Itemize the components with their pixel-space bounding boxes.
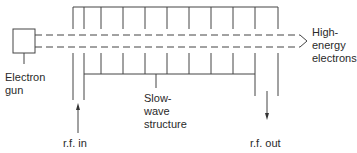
rf-in-label: r.f. in bbox=[63, 137, 87, 150]
slow-wave-structure-label: Slow- wave structure bbox=[144, 92, 187, 131]
electron-gun-label: Electron gun bbox=[5, 71, 45, 97]
outer-tube bbox=[73, 7, 278, 100]
electron-gun-box bbox=[13, 29, 35, 53]
rf-out-arrow bbox=[265, 91, 269, 120]
electron-beam-arrow bbox=[35, 35, 300, 47]
rf-out-label: r.f. out bbox=[250, 137, 281, 150]
beam-arrowhead bbox=[300, 35, 307, 47]
high-energy-electrons-label: High- energy electrons bbox=[312, 26, 357, 65]
slow-wave-structure bbox=[84, 7, 255, 100]
rf-in-arrow bbox=[76, 103, 80, 133]
